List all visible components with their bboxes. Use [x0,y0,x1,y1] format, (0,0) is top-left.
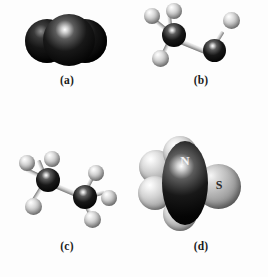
molecular-models-figure: (a) (b) [0,0,268,277]
atom-hydrogen-upper-left [144,8,160,24]
panel-d: N S (d) [134,139,268,277]
panel-b-caption: (b) [134,74,268,86]
atom-hydrogen-c2-right [101,190,117,206]
panel-a: (a) [0,0,134,138]
atom-hydrogen-top [166,3,182,19]
panel-b: (b) [134,0,268,138]
panel-c-stage [0,139,134,244]
atom-hydrogen-on-oxygen [223,12,240,29]
atom-oxygen-right [203,39,226,62]
panel-d-stage: N S [134,139,268,244]
atom-hydrogen-lower-left [152,50,169,67]
panel-a-caption: (a) [0,74,134,86]
atom-carbon-right [73,185,97,209]
atom-nitrogen [162,141,208,225]
panel-b-stage [134,0,268,105]
panel-c: (c) [0,139,134,277]
atom-dark-center [43,14,95,66]
panel-c-caption: (c) [0,240,134,252]
atom-hydrogen-c1-upper-left [19,155,35,171]
atom-carbon-center [162,23,186,47]
panel-a-stage [0,0,134,105]
atom-hydrogen-c2-top [88,165,104,181]
atom-hydrogen-c2-bottom [84,211,101,228]
atom-hydrogen-c1-lower-left [25,198,42,215]
atom-carbon-left [36,168,60,192]
atom-hydrogen-c1-top [44,151,60,167]
panel-d-caption: (d) [134,240,268,252]
